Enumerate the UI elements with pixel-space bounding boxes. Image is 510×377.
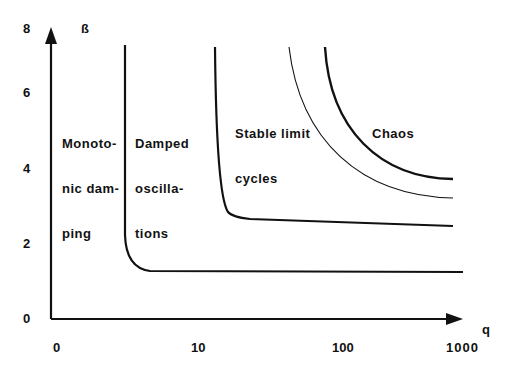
x-tick-1000: 1000 bbox=[446, 340, 479, 355]
region-damped-oscillations: Damped oscilla- tions bbox=[135, 106, 189, 256]
x-tick-10: 10 bbox=[191, 340, 205, 355]
region-chaos: Chaos bbox=[372, 96, 414, 156]
region-limit-line-1: Stable limit bbox=[235, 126, 310, 141]
x-axis-arrow-icon bbox=[446, 313, 463, 325]
region-monotonic-line-1: Monoto- bbox=[62, 136, 119, 151]
region-damped-line-3: tions bbox=[135, 226, 189, 241]
region-damped-line-1: Damped bbox=[135, 136, 189, 151]
y-tick-8: 8 bbox=[23, 21, 30, 36]
y-axis-label: ß bbox=[81, 21, 89, 36]
x-tick-100: 100 bbox=[332, 340, 354, 355]
y-axis-arrow-icon bbox=[45, 27, 57, 44]
region-damped-line-2: oscilla- bbox=[135, 181, 189, 196]
region-limit-line-2: cycles bbox=[235, 171, 310, 186]
region-monotonic-damping: Monoto- nic dam- ping bbox=[62, 106, 119, 256]
y-tick-0: 0 bbox=[23, 311, 30, 326]
x-tick-0: 0 bbox=[53, 340, 60, 355]
region-monotonic-line-2: nic dam- bbox=[62, 181, 119, 196]
region-monotonic-line-3: ping bbox=[62, 226, 119, 241]
y-tick-4: 4 bbox=[23, 161, 30, 176]
y-tick-6: 6 bbox=[23, 85, 30, 100]
boundary-thin bbox=[289, 47, 453, 198]
y-tick-2: 2 bbox=[23, 236, 30, 251]
x-axis-label: q bbox=[482, 322, 490, 337]
region-chaos-line-1: Chaos bbox=[372, 126, 414, 141]
region-stable-limit-cycles: Stable limit cycles bbox=[235, 96, 310, 201]
